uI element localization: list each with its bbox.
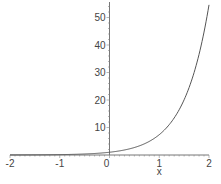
y-tick-label: 50	[94, 12, 106, 23]
y-tick-label: 40	[94, 40, 106, 51]
y-tick-label: 30	[94, 67, 106, 78]
x-tick-label: 2	[206, 158, 212, 169]
x-tick-label: -2	[6, 158, 15, 169]
x-axis-label: x	[157, 166, 162, 177]
y-tick-label: 20	[94, 95, 106, 106]
axes	[10, 2, 209, 158]
chart-plot: -2-10121020304050x	[0, 0, 221, 184]
x-tick-label: -1	[55, 158, 64, 169]
y-tick-label: 10	[94, 122, 106, 133]
x-tick-label: 0	[104, 158, 110, 169]
